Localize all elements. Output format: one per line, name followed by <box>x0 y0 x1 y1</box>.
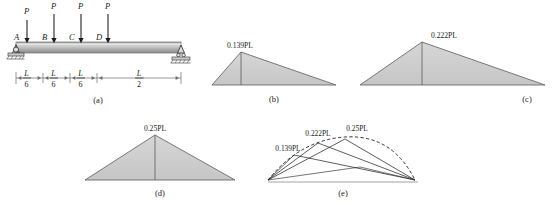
figure-root: P P P P A B C D <box>0 0 560 204</box>
peak-label-d: 0.25PL <box>144 124 167 133</box>
dimension-1: L 6 <box>23 69 32 89</box>
load-label-2: P <box>50 1 56 11</box>
svg-text:6: 6 <box>25 80 29 89</box>
svg-text:2: 2 <box>137 80 141 89</box>
panel-b: 0.139PL (b) <box>212 41 336 104</box>
caption-a: (a) <box>93 95 103 105</box>
svg-text:L: L <box>77 69 83 78</box>
panel-e: 0.139PL 0.222PL 0.25PL (e) <box>268 124 418 198</box>
caption-e: (e) <box>338 188 348 198</box>
dimension-line <box>16 72 181 84</box>
joint-label-d: D <box>95 32 103 42</box>
moment-diagram-d <box>85 135 235 180</box>
joint-label-c: C <box>69 32 75 42</box>
svg-text:6: 6 <box>79 80 83 89</box>
joint-label-a: A <box>13 32 20 42</box>
peak-label-c: 0.222PL <box>431 31 457 40</box>
load-label-3: P <box>77 1 83 11</box>
caption-b: (b) <box>269 94 279 104</box>
beam-member <box>16 42 181 53</box>
panel-d: 0.25PL (d) <box>85 124 235 198</box>
joint-label-b: B <box>42 32 47 42</box>
caption-d: (d) <box>155 188 165 198</box>
moment-diagram-c <box>360 42 545 85</box>
dimension-3: L 6 <box>77 69 86 89</box>
peak-label-b: 0.139PL <box>227 41 253 50</box>
dimension-2: L 6 <box>50 69 59 89</box>
curve-label-e-0222: 0.222PL <box>305 129 331 138</box>
moment-curve-e-chord <box>268 167 415 180</box>
caption-c: (c) <box>522 94 532 104</box>
curve-label-e-025: 0.25PL <box>346 124 368 133</box>
svg-text:L: L <box>50 69 56 78</box>
panel-c: 0.222PL (c) <box>360 31 545 104</box>
dimension-labels: L 6 L 6 L 6 L 2 <box>23 69 144 89</box>
dimension-4: L 2 <box>135 69 144 89</box>
svg-text:L: L <box>23 69 29 78</box>
panel-a: P P P P A B C D <box>7 1 191 105</box>
moment-diagram-b <box>212 52 336 85</box>
curve-label-e-0139: 0.139PL <box>275 144 301 153</box>
svg-text:L: L <box>136 69 142 78</box>
svg-text:6: 6 <box>52 80 56 89</box>
load-label-4: P <box>104 1 110 11</box>
load-label-1: P <box>23 6 29 16</box>
